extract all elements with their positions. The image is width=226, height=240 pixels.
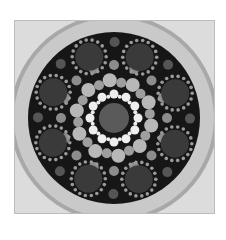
mandala-artwork	[15, 21, 214, 213]
mandala-stone-photo	[14, 20, 215, 214]
